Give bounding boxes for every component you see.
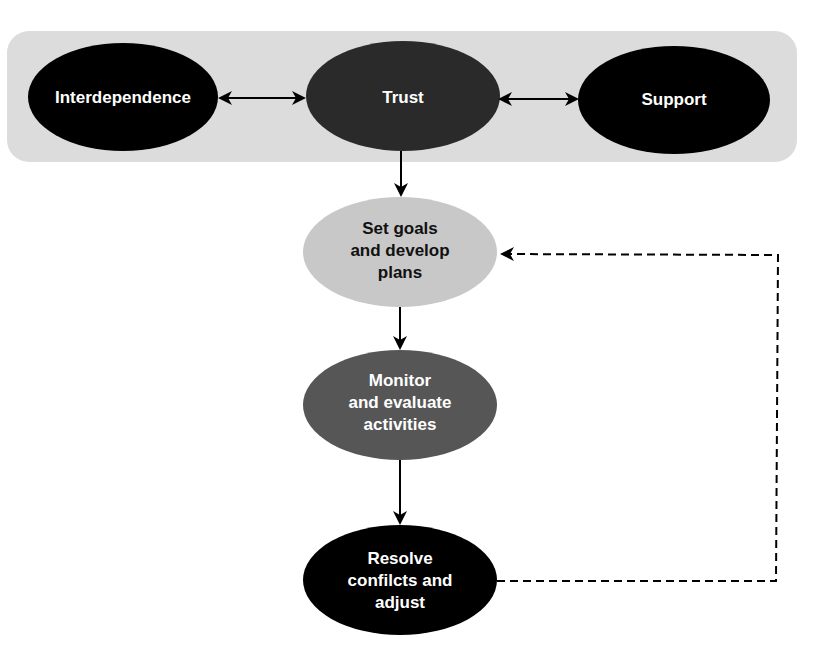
label-set-goals: Set goals and develop plans [303,216,497,286]
label-resolve: Resolve confilcts and adjust [303,546,497,616]
label-support: Support [578,88,770,112]
edge-resolve-setgoals-feedback [497,254,778,581]
label-trust: Trust [306,86,500,110]
label-monitor: Monitor and evaluate activities [303,368,497,438]
label-interdependence: Interdependence [28,86,218,110]
